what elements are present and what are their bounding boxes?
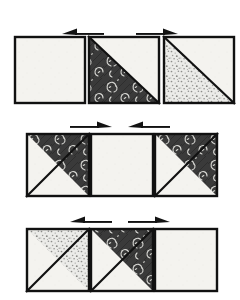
row-3-unit-3-base (154, 228, 218, 292)
row-2-unit-3[interactable] (154, 133, 218, 197)
row-1-unit-1-base (14, 36, 86, 104)
rows-layer (14, 36, 235, 292)
row-2-arrow-left-tail (70, 126, 99, 128)
row-3-arrow-right-tail (128, 221, 157, 223)
row-1-unit-1[interactable] (14, 36, 86, 104)
row-2-unit-1[interactable] (26, 133, 90, 197)
row-2 (26, 133, 218, 197)
row-3-unit-1[interactable] (26, 228, 90, 292)
row-1 (14, 36, 235, 104)
quilt-assembly-diagram (0, 0, 240, 300)
row-3-unit-3[interactable] (154, 228, 218, 292)
row-2-arrow-right-tail (141, 126, 170, 128)
diagram-canvas (0, 0, 240, 300)
row-3-unit-2[interactable] (90, 228, 154, 292)
row-3-arrow-left-tail (83, 221, 112, 223)
row-3 (26, 228, 218, 292)
row-1-unit-2[interactable] (88, 36, 160, 104)
row-2-unit-2[interactable] (90, 133, 154, 197)
row-1-unit-3[interactable] (163, 36, 235, 104)
row-2-unit-2-base (90, 133, 154, 197)
row-1-arrow-left-tail (75, 33, 104, 35)
row-1-arrow-right-tail (136, 33, 165, 35)
